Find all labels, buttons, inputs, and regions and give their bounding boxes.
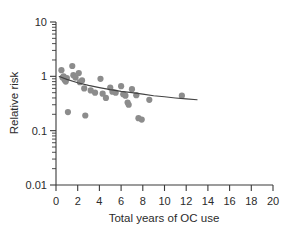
x-tick-label: 18 — [245, 195, 257, 207]
y-tick-label: 10 — [35, 16, 47, 28]
data-point — [129, 86, 135, 92]
scatter-plot-svg: 0.010.1110 02468101214161820 Total years… — [0, 0, 304, 238]
x-tick-label: 0 — [53, 195, 59, 207]
x-tick-label: 14 — [202, 195, 214, 207]
data-point — [79, 77, 85, 83]
x-tick-label: 4 — [96, 195, 102, 207]
x-tick-label: 6 — [118, 195, 124, 207]
chart-figure: 0.010.1110 02468101214161820 Total years… — [0, 0, 304, 238]
x-tick-label: 8 — [140, 195, 146, 207]
x-axis-tick-labels: 02468101214161820 — [53, 195, 279, 207]
data-point — [103, 95, 109, 101]
x-tick-label: 12 — [180, 195, 192, 207]
x-tick-label: 10 — [158, 195, 170, 207]
x-tick-label: 2 — [75, 195, 81, 207]
y-axis-tick-labels: 0.010.1110 — [26, 16, 47, 191]
data-point — [76, 70, 82, 76]
y-tick-label: 0.01 — [26, 179, 47, 191]
data-point — [81, 85, 87, 91]
y-tick-label: 1 — [41, 70, 47, 82]
data-points — [58, 63, 185, 123]
data-point — [97, 76, 103, 82]
y-axis-title: Relative risk — [8, 71, 20, 134]
x-tick-label: 20 — [267, 195, 279, 207]
x-axis-title: Total years of OC use — [109, 212, 220, 224]
x-axis: 02468101214161820 — [53, 185, 279, 207]
data-point — [92, 90, 98, 96]
y-axis-minor-ticks — [52, 24, 56, 168]
data-point — [82, 112, 88, 118]
data-point — [146, 97, 152, 103]
data-point — [122, 93, 128, 99]
data-point — [139, 116, 145, 122]
data-point — [65, 109, 71, 115]
data-point — [69, 63, 75, 69]
x-tick-label: 16 — [223, 195, 235, 207]
y-axis-major-ticks — [50, 22, 56, 185]
data-point — [126, 102, 132, 108]
y-axis: 0.010.1110 — [26, 16, 56, 191]
data-point — [118, 83, 124, 89]
data-point — [58, 67, 64, 73]
x-axis-major-ticks — [56, 185, 273, 191]
y-tick-label: 0.1 — [32, 125, 47, 137]
